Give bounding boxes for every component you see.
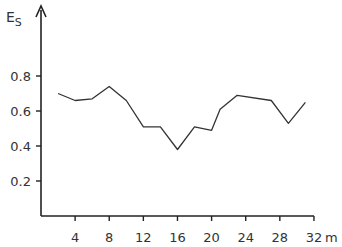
y-tick-label: 0.2 bbox=[10, 174, 31, 189]
x-tick-label: 12 bbox=[135, 230, 152, 245]
x-tick-label: 24 bbox=[237, 230, 254, 245]
y-tick-label: 0.8 bbox=[10, 69, 31, 84]
y-tick-label: 0.4 bbox=[10, 139, 31, 154]
x-tick-label: 16 bbox=[169, 230, 186, 245]
x-tick-label: 4 bbox=[71, 230, 79, 245]
x-tick-label: 32 bbox=[306, 230, 323, 245]
x-axis-label: m bbox=[325, 230, 338, 245]
x-tick-label: 20 bbox=[203, 230, 220, 245]
y-ticks: 0.20.40.60.8 bbox=[10, 69, 41, 189]
x-ticks: 48121620242832 bbox=[71, 216, 322, 245]
x-tick-label: 8 bbox=[105, 230, 113, 245]
line-chart: ES m 0.20.40.60.8 48121620242832 bbox=[0, 0, 342, 247]
y-axis-label: ES bbox=[6, 9, 22, 29]
series-line bbox=[58, 87, 305, 150]
x-tick-label: 28 bbox=[272, 230, 289, 245]
y-tick-label: 0.6 bbox=[10, 104, 31, 119]
